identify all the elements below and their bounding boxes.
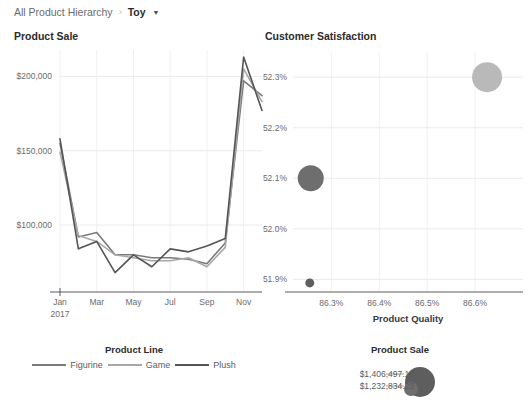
scatter-x-tick-labels: 86.3%86.4%86.5%86.6% bbox=[319, 298, 487, 308]
x-tick-label: 86.4% bbox=[367, 298, 392, 308]
line-chart-x-axis bbox=[50, 288, 262, 296]
legend-item-plush[interactable]: Plush bbox=[175, 360, 236, 370]
product-line-legend: Product Line FigurineGamePlush bbox=[14, 344, 254, 370]
legend-label-figurine: Figurine bbox=[70, 360, 103, 370]
line-chart-series-lines bbox=[60, 57, 262, 273]
scatter-bubbles[interactable] bbox=[298, 62, 502, 287]
line-chart-x-tick-labels: JanMarMayJulSepNov2017 bbox=[51, 297, 252, 319]
y-tick-label: 52.2% bbox=[263, 123, 288, 133]
legend-item-game[interactable]: Game bbox=[108, 360, 171, 370]
chevron-down-icon[interactable]: ▼ bbox=[153, 9, 160, 16]
product-sale-chart-title: Product Sale bbox=[14, 30, 78, 42]
scatter-y-tick-labels: 52.3%52.2%52.1%52.0%51.9% bbox=[263, 72, 288, 284]
breadcrumb-separator-icon: › bbox=[119, 7, 122, 17]
x-tick-label: Sep bbox=[199, 297, 214, 307]
legend-label-game: Game bbox=[146, 360, 171, 370]
y-tick-label: 52.3% bbox=[263, 72, 288, 82]
product-line-legend-title: Product Line bbox=[14, 344, 254, 355]
y-tick-label: 51.9% bbox=[263, 274, 288, 284]
scatter-vertical-gridlines bbox=[331, 52, 475, 292]
bubble-game[interactable] bbox=[305, 278, 314, 287]
x-tick-label-year: 2017 bbox=[51, 309, 70, 319]
product-sale-legend-value-1: $1,232,834.23 bbox=[360, 380, 414, 392]
legend-label-plush: Plush bbox=[213, 360, 236, 370]
product-quality-axis-title: Product Quality bbox=[373, 313, 444, 324]
customer-satisfaction-scatter-chart[interactable]: 52.3%52.2%52.1%52.0%51.9% 86.3%86.4%86.5… bbox=[255, 44, 528, 334]
x-tick-label: 86.5% bbox=[415, 298, 440, 308]
x-tick-label: 86.6% bbox=[463, 298, 488, 308]
bubble-figurine[interactable] bbox=[298, 165, 324, 191]
y-tick-label: $200,000 bbox=[17, 71, 53, 81]
breadcrumb: All Product Hierarchy › Toy ▼ bbox=[14, 6, 159, 18]
y-tick-label: 52.1% bbox=[263, 173, 288, 183]
customer-satisfaction-chart-title: Customer Satisfaction bbox=[265, 30, 376, 42]
product-sale-line-chart[interactable]: $200,000$150,000$100,000 JanMarMayJulSep… bbox=[0, 44, 268, 334]
legend-swatch-plush bbox=[175, 364, 209, 367]
line-chart-y-tick-labels: $200,000$150,000$100,000 bbox=[17, 71, 53, 230]
y-tick-label: 52.0% bbox=[263, 224, 288, 234]
x-tick-label: Jul bbox=[165, 297, 176, 307]
x-tick-label: May bbox=[125, 297, 142, 307]
product-sale-legend-labels: $1,406,497.10$1,232,834.23 bbox=[360, 368, 414, 392]
x-tick-label: Nov bbox=[236, 297, 252, 307]
product-sale-size-legend: Product Sale $1,406,497.10$1,232,834.23 bbox=[300, 344, 500, 404]
legend-swatch-game bbox=[108, 364, 142, 367]
bubble-plush[interactable] bbox=[472, 62, 502, 92]
line-chart-gridlines bbox=[60, 76, 262, 225]
product-sale-legend-value-0: $1,406,497.10 bbox=[360, 368, 414, 380]
product-sale-legend-title: Product Sale bbox=[300, 344, 500, 355]
x-tick-label: Jan bbox=[53, 297, 67, 307]
y-tick-label: $100,000 bbox=[17, 220, 53, 230]
scatter-horizontal-gridlines bbox=[293, 77, 523, 279]
x-tick-label: Mar bbox=[89, 297, 104, 307]
breadcrumb-root-link[interactable]: All Product Hierarchy bbox=[14, 6, 113, 18]
legend-item-figurine[interactable]: Figurine bbox=[32, 360, 103, 370]
y-tick-label: $150,000 bbox=[17, 146, 53, 156]
breadcrumb-current-item[interactable]: Toy bbox=[128, 6, 146, 18]
x-tick-label: 86.3% bbox=[319, 298, 344, 308]
product-line-legend-items: FigurineGamePlush bbox=[14, 360, 254, 370]
line-series-plush bbox=[60, 57, 262, 273]
legend-swatch-figurine bbox=[32, 364, 66, 367]
product-sale-legend-bubbles: $1,406,497.10$1,232,834.23 bbox=[300, 360, 500, 404]
line-chart-vertical-gridlines bbox=[60, 50, 244, 292]
